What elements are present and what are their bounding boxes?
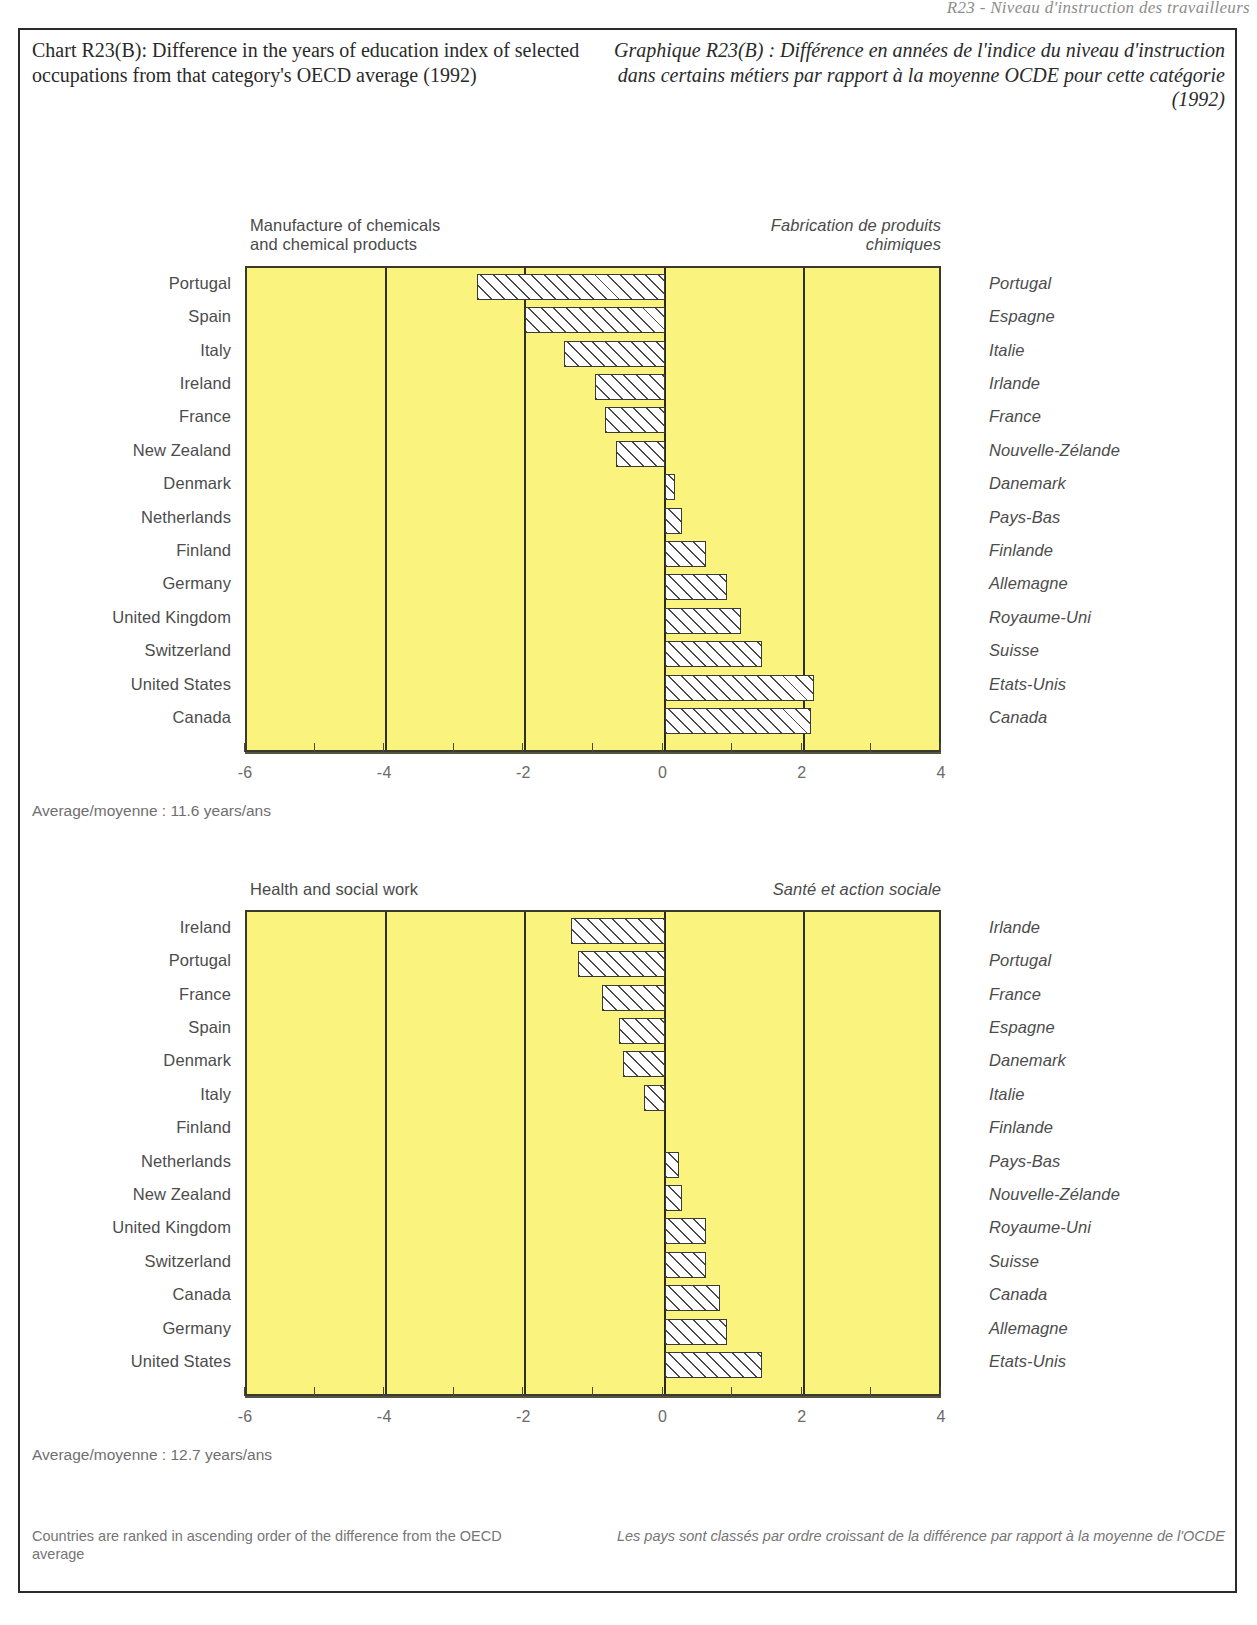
gridline-2-health [803, 912, 805, 1394]
category-label-en-chemicals-13: Canada [0, 708, 231, 727]
footnote-french: Les pays sont classés par ordre croissan… [585, 1527, 1225, 1545]
bar-health-ireland [571, 918, 665, 944]
category-label-fr-health-0: Irlande [989, 918, 1249, 937]
x-tick-health--1 [592, 1387, 593, 1396]
category-label-en-health-6: Finland [0, 1118, 231, 1137]
category-label-en-health-10: Switzerland [0, 1252, 231, 1271]
category-label-en-chemicals-5: New Zealand [0, 441, 231, 460]
x-tick-health--4 [383, 1387, 384, 1396]
x-ticklabel-health-0: -6 [222, 1408, 268, 1426]
x-tick-health--6 [244, 1387, 245, 1396]
x-tick-health-1 [731, 1387, 732, 1396]
category-label-fr-health-11: Canada [989, 1285, 1249, 1304]
bar-chemicals-denmark [665, 474, 675, 500]
category-label-fr-chemicals-10: Royaume-Uni [989, 608, 1249, 627]
bar-chemicals-united-kingdom [665, 608, 742, 634]
x-axis-line-chemicals [245, 752, 941, 754]
gridline--4-health [385, 912, 387, 1394]
category-label-fr-chemicals-2: Italie [989, 341, 1249, 360]
x-tick-chemicals--3 [453, 743, 454, 752]
chart-page: R23 - Niveau d'instruction des travaille… [0, 0, 1257, 1625]
x-tick-chemicals-2 [801, 743, 802, 752]
bar-health-united-states [665, 1352, 762, 1378]
bar-chemicals-finland [665, 541, 707, 567]
category-label-en-health-9: United Kingdom [0, 1218, 231, 1237]
bar-chemicals-ireland [595, 374, 665, 400]
category-label-en-health-11: Canada [0, 1285, 231, 1304]
category-label-en-chemicals-1: Spain [0, 307, 231, 326]
x-tick-chemicals--1 [592, 743, 593, 752]
category-label-en-chemicals-12: United States [0, 675, 231, 694]
category-label-fr-chemicals-13: Canada [989, 708, 1249, 727]
x-tick-chemicals--6 [244, 743, 245, 752]
category-label-fr-chemicals-5: Nouvelle-Zélande [989, 441, 1249, 460]
category-label-en-health-3: Spain [0, 1018, 231, 1037]
bar-health-canada [665, 1285, 721, 1311]
bar-chemicals-united-states [665, 675, 815, 701]
category-label-fr-chemicals-1: Espagne [989, 307, 1249, 326]
category-label-en-chemicals-7: Netherlands [0, 508, 231, 527]
gridline--4-chemicals [385, 268, 387, 750]
bar-chemicals-spain [525, 307, 664, 333]
category-label-en-health-12: Germany [0, 1319, 231, 1338]
bar-chemicals-germany [665, 574, 728, 600]
category-label-en-chemicals-11: Switzerland [0, 641, 231, 660]
bar-health-germany [665, 1319, 728, 1345]
bar-chemicals-netherlands [665, 508, 682, 534]
category-label-fr-health-6: Finlande [989, 1118, 1249, 1137]
x-ticklabel-chemicals-4: 2 [779, 764, 825, 782]
x-tick-chemicals--2 [522, 743, 523, 752]
category-label-en-chemicals-2: Italy [0, 341, 231, 360]
gridline--2-health [524, 912, 526, 1394]
x-ticklabel-chemicals-3: 0 [640, 764, 686, 782]
category-label-en-health-1: Portugal [0, 951, 231, 970]
x-ticklabel-chemicals-1: -4 [361, 764, 407, 782]
x-tick-chemicals-3 [870, 743, 871, 752]
bar-health-italy [644, 1085, 665, 1111]
x-tick-health-0 [662, 1387, 663, 1396]
category-label-fr-health-2: France [989, 985, 1249, 1004]
x-tick-health-2 [801, 1387, 802, 1396]
average-note-chemicals: Average/moyenne : 11.6 years/ans [32, 802, 271, 820]
category-label-fr-health-4: Danemark [989, 1051, 1249, 1070]
x-tick-health--2 [522, 1387, 523, 1396]
category-label-en-chemicals-9: Germany [0, 574, 231, 593]
bar-health-spain [619, 1018, 664, 1044]
category-label-fr-health-10: Suisse [989, 1252, 1249, 1271]
x-tick-chemicals-1 [731, 743, 732, 752]
category-label-fr-chemicals-7: Pays-Bas [989, 508, 1249, 527]
x-tick-chemicals-4 [940, 743, 941, 752]
panel-title-french-health: Santé et action sociale [521, 880, 941, 899]
footnote-english: Countries are ranked in ascending order … [32, 1527, 552, 1563]
x-tick-chemicals-0 [662, 743, 663, 752]
category-label-fr-health-8: Nouvelle-Zélande [989, 1185, 1249, 1204]
x-tick-chemicals--5 [314, 743, 315, 752]
category-label-en-health-5: Italy [0, 1085, 231, 1104]
category-label-en-chemicals-4: France [0, 407, 231, 426]
x-ticklabel-health-1: -4 [361, 1408, 407, 1426]
category-label-en-chemicals-0: Portugal [0, 274, 231, 293]
x-ticklabel-health-2: -2 [500, 1408, 546, 1426]
category-label-fr-health-1: Portugal [989, 951, 1249, 970]
bar-chemicals-canada [665, 708, 811, 734]
bar-health-netherlands [665, 1152, 679, 1178]
category-label-fr-health-7: Pays-Bas [989, 1152, 1249, 1171]
category-label-fr-health-13: Etats-Unis [989, 1352, 1249, 1371]
category-label-en-health-7: Netherlands [0, 1152, 231, 1171]
bar-chemicals-france [605, 407, 664, 433]
bar-health-france [602, 985, 665, 1011]
page-bleed-header: R23 - Niveau d'instruction des travaille… [690, 0, 1250, 14]
category-label-fr-chemicals-6: Danemark [989, 474, 1249, 493]
x-ticklabel-health-5: 4 [918, 1408, 964, 1426]
panel-title-french-chemicals: Fabrication de produits chimiques [521, 216, 941, 254]
bar-chemicals-portugal [477, 274, 665, 300]
x-ticklabel-chemicals-5: 4 [918, 764, 964, 782]
bar-health-new-zealand [665, 1185, 682, 1211]
category-label-en-health-13: United States [0, 1352, 231, 1371]
plot-area-health [245, 910, 941, 1396]
x-ticklabel-health-4: 2 [779, 1408, 825, 1426]
category-label-fr-health-12: Allemagne [989, 1319, 1249, 1338]
category-label-fr-chemicals-8: Finlande [989, 541, 1249, 560]
category-label-en-chemicals-8: Finland [0, 541, 231, 560]
x-tick-chemicals--4 [383, 743, 384, 752]
